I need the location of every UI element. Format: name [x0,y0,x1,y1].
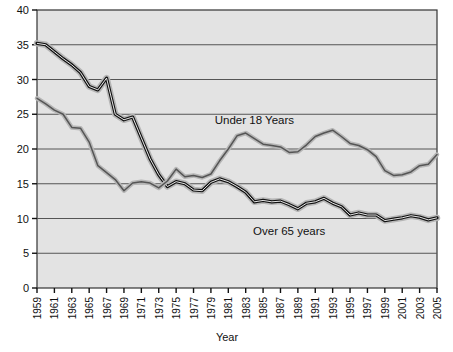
y-tick-label: 0 [23,282,29,294]
x-tick-label: 2001 [397,297,408,320]
x-axis-title: Year [216,331,239,343]
series-label-over-65: Over 65 years [253,225,325,237]
poverty-rate-line-chart: 0510152025303540 19591961196319651967196… [0,0,453,352]
x-tick-label: 1979 [206,297,217,320]
y-tick-label: 35 [17,39,29,51]
x-tick-label: 1975 [171,297,182,320]
y-tick-label: 10 [17,213,29,225]
x-tick-label: 1985 [258,297,269,320]
x-tick-label: 1989 [293,297,304,320]
x-tick-label: 1969 [119,297,130,320]
x-tick-label: 1991 [310,297,321,320]
x-tick-label: 1981 [223,297,234,320]
x-tick-label: 1965 [84,297,95,320]
x-tick-label: 1977 [189,297,200,320]
x-tick-label: 2003 [415,297,426,320]
x-tick-label: 1971 [136,297,147,320]
chart-page: 0510152025303540 19591961196319651967196… [0,0,453,352]
y-tick-label: 15 [17,178,29,190]
x-tick-label: 1993 [328,297,339,320]
y-tick-label: 40 [17,4,29,16]
x-tick-label: 1995 [345,297,356,320]
x-tick-label: 1999 [380,297,391,320]
series-label-under-18: Under 18 Years [215,114,295,126]
y-tick-label: 20 [17,143,29,155]
y-tick-label: 5 [23,247,29,259]
y-tick-label: 25 [17,108,29,120]
x-tick-label: 1987 [275,297,286,320]
x-tick-label: 2005 [432,297,443,320]
x-tick-label: 1959 [32,297,43,320]
x-tick-label: 1983 [241,297,252,320]
x-tick-label: 1961 [49,297,60,320]
x-tick-label: 1963 [67,297,78,320]
x-tick-label: 1973 [154,297,165,320]
x-tick-label: 1997 [362,297,373,320]
x-tick-label: 1967 [102,297,113,320]
y-tick-label: 30 [17,74,29,86]
